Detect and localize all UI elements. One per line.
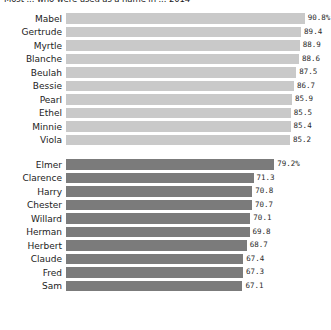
bar-fill — [66, 254, 243, 265]
bar-track: 71.3 — [66, 172, 331, 186]
bar-category-label: Herman — [0, 227, 66, 237]
bar-category-label: Elmer — [0, 160, 66, 170]
bar-track: 85.9 — [66, 93, 331, 107]
bar-category-label: Minnie — [0, 122, 66, 132]
bar-category-label: Viola — [0, 135, 66, 145]
bar-value-label: 70.1 — [250, 213, 271, 224]
bar-value-label: 85.9 — [292, 94, 313, 105]
bar-fill — [66, 213, 250, 224]
bar-row: Pearl85.9 — [0, 93, 331, 107]
bar-fill — [66, 173, 254, 184]
bar-track: 68.7 — [66, 239, 331, 253]
bar-category-label: Willard — [0, 214, 66, 224]
bar-value-label: 67.1 — [242, 281, 263, 292]
bar-track: 85.2 — [66, 134, 331, 148]
bar-category-label: Pearl — [0, 95, 66, 105]
bar-track: 69.8 — [66, 226, 331, 240]
bar-category-label: Beulah — [0, 68, 66, 78]
bar-category-label: Chester — [0, 200, 66, 210]
bar-track: 90.8% — [66, 12, 331, 26]
bar-track: 79.2% — [66, 158, 331, 172]
bar-row: Sam67.1 — [0, 280, 331, 294]
bar-track: 87.5 — [66, 66, 331, 80]
bar-category-label: Mabel — [0, 14, 66, 24]
bar-row: Herbert68.7 — [0, 239, 331, 253]
bar-fill — [66, 40, 300, 51]
bar-fill — [66, 135, 290, 146]
bar-track: 85.4 — [66, 120, 331, 134]
bar-row: Blanche88.6 — [0, 53, 331, 67]
bar-track: 70.7 — [66, 199, 331, 213]
bar-fill — [66, 67, 296, 78]
bar-row: Myrtle88.9 — [0, 39, 331, 53]
bar-value-label: 85.5 — [291, 108, 312, 119]
bar-category-label: Myrtle — [0, 41, 66, 51]
bar-track: 85.5 — [66, 107, 331, 121]
bar-value-label: 87.5 — [296, 67, 317, 78]
bar-row: Beulah87.5 — [0, 66, 331, 80]
bar-fill — [66, 54, 299, 65]
bar-fill — [66, 159, 274, 170]
bar-value-label: 70.7 — [252, 200, 273, 211]
bar-value-label: 69.8 — [250, 227, 271, 238]
bar-group-bottom: Elmer79.2%Clarence71.3Harry70.8Chester70… — [0, 158, 331, 293]
bar-group-top: Mabel90.8%Gertrude89.4Myrtle88.9Blanche8… — [0, 12, 331, 147]
bar-track: 67.4 — [66, 253, 331, 267]
bar-fill — [66, 13, 305, 24]
bar-fill — [66, 121, 291, 132]
bar-row: Claude67.4 — [0, 253, 331, 267]
bar-fill — [66, 186, 252, 197]
bar-row: Mabel90.8% — [0, 12, 331, 26]
bar-fill — [66, 108, 291, 119]
bar-row: Bessie86.7 — [0, 80, 331, 94]
bar-track: 70.1 — [66, 212, 331, 226]
bar-track: 88.9 — [66, 39, 331, 53]
bar-value-label: 90.8% — [305, 13, 331, 24]
bar-track: 67.1 — [66, 280, 331, 294]
bar-fill — [66, 81, 294, 92]
bar-track: 89.4 — [66, 26, 331, 40]
bar-fill — [66, 94, 292, 105]
bar-row: Gertrude89.4 — [0, 26, 331, 40]
bar-row: Fred67.3 — [0, 266, 331, 280]
bar-row: Viola85.2 — [0, 134, 331, 148]
bar-category-label: Harry — [0, 187, 66, 197]
bar-row: Ethel85.5 — [0, 107, 331, 121]
bar-fill — [66, 281, 242, 292]
bar-value-label: 86.7 — [294, 81, 315, 92]
bar-value-label: 67.3 — [243, 267, 264, 278]
bar-category-label: Fred — [0, 268, 66, 278]
bar-fill — [66, 27, 301, 38]
bar-row: Chester70.7 — [0, 199, 331, 213]
bar-track: 88.6 — [66, 53, 331, 67]
bar-category-label: Herbert — [0, 241, 66, 251]
bar-category-label: Claude — [0, 254, 66, 264]
bar-value-label: 71.3 — [254, 173, 275, 184]
bar-value-label: 67.4 — [243, 254, 264, 265]
bar-row: Willard70.1 — [0, 212, 331, 226]
bar-fill — [66, 227, 250, 238]
bar-category-label: Clarence — [0, 173, 66, 183]
bar-category-label: Sam — [0, 281, 66, 291]
chart-root: Most ... who were used as a name in ... … — [0, 0, 331, 330]
bar-value-label: 68.7 — [247, 240, 268, 251]
bar-row: Clarence71.3 — [0, 172, 331, 186]
bar-value-label: 89.4 — [301, 27, 322, 38]
bar-category-label: Blanche — [0, 54, 66, 64]
bar-row: Minnie85.4 — [0, 120, 331, 134]
bar-category-label: Gertrude — [0, 27, 66, 37]
bar-category-label: Bessie — [0, 81, 66, 91]
bar-value-label: 88.9 — [300, 40, 321, 51]
bar-value-label: 79.2% — [274, 159, 300, 170]
bar-category-label: Ethel — [0, 108, 66, 118]
bar-track: 70.8 — [66, 185, 331, 199]
bar-value-label: 88.6 — [299, 54, 320, 65]
bar-row: Herman69.8 — [0, 226, 331, 240]
bar-row: Harry70.8 — [0, 185, 331, 199]
bar-fill — [66, 240, 247, 251]
bar-value-label: 85.2 — [290, 135, 311, 146]
bar-fill — [66, 200, 252, 211]
bar-fill — [66, 267, 243, 278]
bar-value-label: 85.4 — [291, 121, 312, 132]
bar-row: Elmer79.2% — [0, 158, 331, 172]
